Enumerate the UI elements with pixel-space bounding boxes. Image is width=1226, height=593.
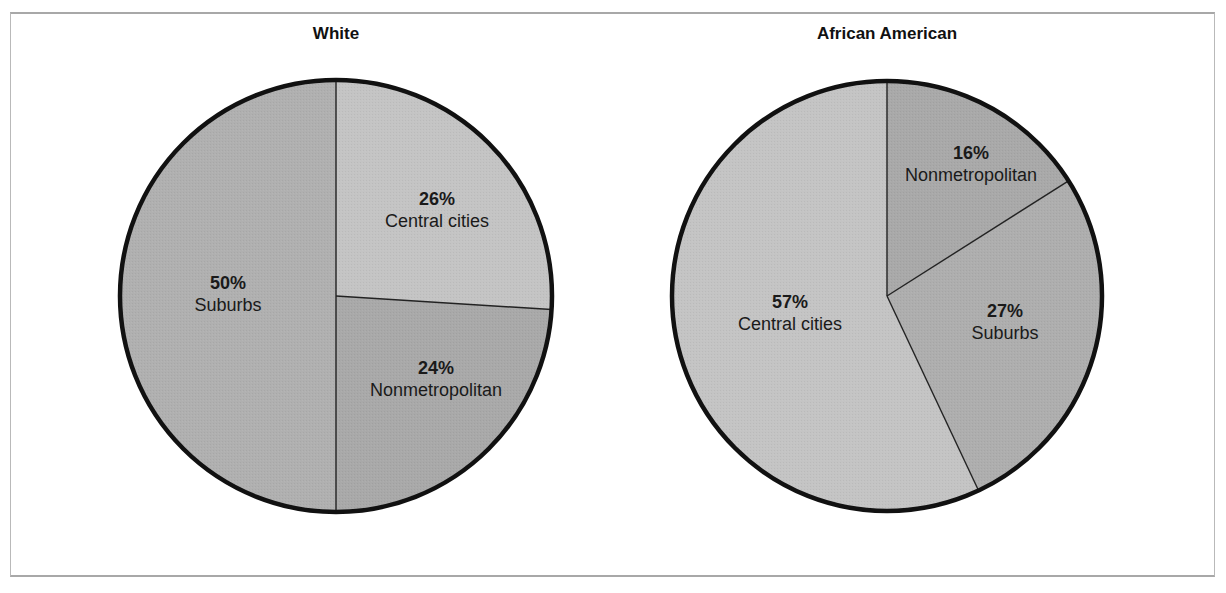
slice-label-suburbs: 27% Suburbs [971,300,1038,344]
african-american-pie [672,81,1102,511]
white-pie [120,80,552,512]
slice-label-suburbs: 50% Suburbs [194,272,261,316]
slice-label-central-cities: 57% Central cities [738,291,842,335]
slice-label-nonmetropolitan: 16% Nonmetropolitan [905,142,1037,186]
pie-charts [0,0,1226,593]
slice-label-central-cities: 26% Central cities [385,188,489,232]
slice-label-nonmetropolitan: 24% Nonmetropolitan [370,357,502,401]
